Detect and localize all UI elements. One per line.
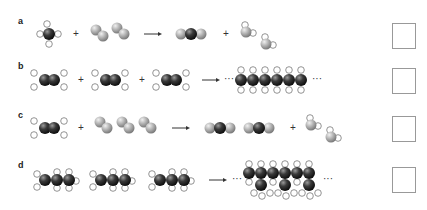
row-c-answer-box[interactable]	[392, 116, 416, 142]
row-d-arrow-icon	[209, 178, 227, 182]
row-label-c: c	[18, 110, 23, 120]
row-b-ellipsis-left: ···	[224, 73, 234, 84]
row-a-arrow-icon	[144, 32, 162, 36]
row-c-plus-sign-2: +	[290, 122, 296, 133]
row-a-oxygen-molecules	[91, 23, 130, 42]
row-c-ethene	[31, 118, 68, 139]
row-a-carbon-dioxide	[176, 28, 207, 40]
row-label-d: d	[18, 160, 24, 170]
row-b-answer-box[interactable]	[392, 68, 416, 94]
row-d-answer-box[interactable]	[392, 167, 416, 193]
row-b-arrow-icon	[202, 78, 220, 82]
row-a-answer-box[interactable]	[392, 23, 416, 49]
row-c-oxygen-molecules	[95, 117, 157, 134]
row-label-a: a	[18, 16, 23, 26]
row-d-ellipsis-right: ···	[323, 173, 333, 184]
row-c-arrow-icon	[172, 126, 190, 130]
row-c-carbon-dioxide-molecules	[205, 122, 275, 134]
row-b-plus-sign: +	[78, 74, 84, 85]
row-a-methane	[37, 21, 62, 48]
row-b-ellipsis-right: ···	[312, 73, 322, 84]
row-d-propene-molecules	[34, 169, 195, 192]
row-d-ellipsis-left: ···	[232, 173, 242, 184]
row-b-ethene-molecules	[31, 70, 190, 91]
row-a-water-molecules	[241, 22, 277, 50]
row-c-plus-sign: +	[78, 122, 84, 133]
row-b-plus-sign-2: +	[139, 74, 145, 85]
row-b-polyethylene-chain	[235, 67, 307, 94]
row-c-water-molecules	[306, 115, 342, 143]
reaction-diagram	[0, 0, 427, 210]
row-d-polypropylene-chain	[243, 161, 321, 200]
row-label-b: b	[18, 61, 24, 71]
row-a-plus-sign: +	[73, 28, 79, 39]
row-a-plus-sign-2: +	[223, 28, 229, 39]
